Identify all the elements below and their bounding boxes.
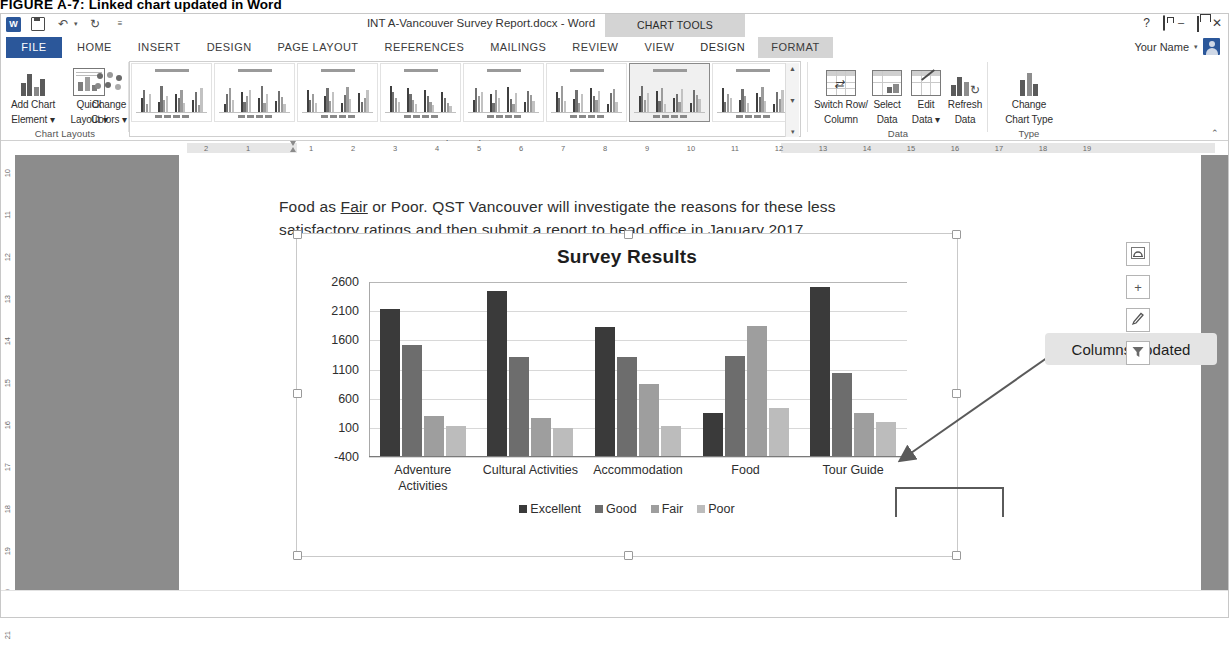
select-data-button[interactable]: Select Data (867, 62, 907, 125)
tab-format-chart[interactable]: FORMAT (758, 37, 832, 58)
selection-handle-tc[interactable] (624, 230, 633, 239)
tab-home[interactable]: HOME (64, 37, 125, 58)
bar[interactable] (639, 384, 659, 456)
tab-insert[interactable]: INSERT (125, 37, 194, 58)
horizontal-ruler[interactable]: 2112345678910111213141516171819 (1, 141, 1228, 156)
bar[interactable] (769, 408, 789, 456)
paragraph-top-underlined-word: Fair (341, 198, 368, 215)
chart-x-axis-labels[interactable]: AdventureActivitiesCultural ActivitiesAc… (369, 462, 907, 494)
bar[interactable] (617, 357, 637, 456)
undo-icon[interactable]: ↶ (55, 16, 71, 32)
gallery-scroll-down-icon[interactable]: ▼ (789, 95, 796, 106)
chart-style-thumbnail[interactable] (463, 63, 544, 122)
tab-page-layout[interactable]: PAGE LAYOUT (265, 37, 372, 58)
tab-design-chart[interactable]: DESIGN (687, 37, 758, 58)
word-application-window: FIGURE A-7: Linked chart updated in Word… (0, 0, 1229, 645)
bar[interactable] (661, 426, 681, 456)
customize-qat-icon[interactable]: ≡ (112, 16, 128, 32)
avatar[interactable] (1203, 38, 1220, 55)
restore-button[interactable] (1197, 15, 1199, 30)
bar[interactable] (380, 309, 400, 456)
tab-mailings[interactable]: MAILINGS (477, 37, 559, 58)
bar[interactable] (747, 326, 767, 456)
layout-options-button[interactable] (1126, 242, 1150, 266)
chart-plot-area[interactable] (369, 282, 907, 457)
bar[interactable] (595, 327, 615, 457)
chart-y-axis-labels[interactable]: 2600210016001100600100-400 (297, 282, 365, 458)
vertical-ruler[interactable]: 101112131415161718192021 (1, 155, 16, 591)
bar-group[interactable] (369, 282, 477, 456)
chart-style-thumbnail[interactable] (629, 63, 710, 122)
chart-style-thumbnail[interactable] (214, 63, 295, 122)
minimize-button[interactable]: – (1178, 17, 1184, 28)
chart-filters-button[interactable] (1126, 341, 1150, 365)
selection-handle-ml[interactable] (293, 389, 302, 398)
bar[interactable] (509, 357, 529, 456)
account-dropdown-icon[interactable]: ▾ (1194, 43, 1198, 51)
selection-handle-bc[interactable] (624, 551, 633, 560)
indent-marker[interactable] (290, 141, 297, 153)
bar[interactable] (725, 356, 745, 456)
bar-group[interactable] (692, 282, 800, 456)
vertical-ruler-tick-label: 15 (3, 379, 12, 387)
selection-handle-br[interactable] (952, 551, 961, 560)
bar[interactable] (703, 413, 723, 456)
document-canvas: Food as Fair or Poor. QST Vancouver will… (15, 155, 1228, 591)
chart-tools-label: CHART TOOLS (637, 19, 713, 31)
chart-style-thumbnail[interactable] (131, 63, 212, 122)
chart-style-thumbnail[interactable] (546, 63, 627, 122)
bar[interactable] (446, 426, 466, 456)
bar[interactable] (810, 287, 830, 456)
tab-file[interactable]: FILE (6, 37, 62, 58)
bar[interactable] (553, 428, 573, 456)
legend-item[interactable]: Poor (697, 502, 734, 516)
bar[interactable] (531, 418, 551, 457)
bar[interactable] (402, 345, 422, 456)
chart-style-thumbnail[interactable] (380, 63, 461, 122)
bar-group[interactable] (477, 282, 585, 456)
undo-dropdown-icon[interactable]: ▾ (74, 20, 78, 28)
chart-object[interactable]: Survey Results 2600210016001100600100-40… (296, 233, 958, 557)
bar[interactable] (424, 416, 444, 456)
selection-handle-bl[interactable] (293, 551, 302, 560)
chart-elements-button[interactable]: + (1126, 275, 1150, 299)
refresh-data-button[interactable]: ↻ Refresh Data (944, 62, 986, 125)
chart-style-thumbnail[interactable] (712, 63, 793, 122)
legend-item[interactable]: Excellent (519, 502, 581, 516)
gallery-scrollbar[interactable]: ▲ ▼ ▾ (785, 63, 799, 137)
switch-row-column-button[interactable]: ⇄ Switch Row/ Column (811, 62, 871, 125)
tab-view[interactable]: VIEW (631, 37, 687, 58)
chart-title[interactable]: Survey Results (297, 246, 957, 268)
chart-legend[interactable]: ExcellentGoodFairPoor (297, 502, 957, 516)
add-chart-element-button[interactable]: Add Chart Element ▾ (3, 62, 63, 125)
chart-style-thumbnail[interactable] (297, 63, 378, 122)
close-button[interactable]: ✕ (1212, 17, 1222, 29)
tab-design[interactable]: DESIGN (194, 37, 265, 58)
gallery-more-icon[interactable]: ▾ (791, 126, 795, 137)
save-icon[interactable] (30, 16, 46, 32)
chart-bar-groups (369, 282, 907, 456)
thumbnail-axis (136, 112, 207, 113)
bar-group[interactable] (584, 282, 692, 456)
help-button[interactable]: ? (1143, 17, 1150, 29)
chart-styles-button[interactable] (1126, 308, 1150, 332)
change-chart-type-button[interactable]: Change Chart Type (997, 62, 1061, 125)
tab-review[interactable]: REVIEW (559, 37, 631, 58)
gallery-scroll-up-icon[interactable]: ▲ (789, 63, 796, 74)
legend-item[interactable]: Good (595, 502, 637, 516)
selection-handle-tr[interactable] (952, 230, 961, 239)
chart-styles-gallery[interactable]: ▲ ▼ ▾ (129, 61, 801, 137)
tab-references[interactable]: REFERENCES (371, 37, 477, 58)
redo-icon[interactable]: ↻ (87, 16, 103, 32)
edit-data-label-2: Data ▾ (906, 114, 946, 126)
legend-item[interactable]: Fair (651, 502, 684, 516)
collapse-ribbon-icon[interactable]: ⌃ (1211, 128, 1219, 138)
edit-data-button[interactable]: Edit Data ▾ (906, 62, 946, 125)
bar[interactable] (832, 373, 852, 456)
ruler-tick-label: 1 (246, 144, 250, 153)
document-page[interactable]: Food as Fair or Poor. QST Vancouver will… (179, 155, 1201, 591)
selection-handle-tl[interactable] (293, 230, 302, 239)
thumbnail-bars (552, 80, 621, 112)
bar[interactable] (487, 291, 507, 456)
ribbon-display-options-button[interactable] (1163, 17, 1165, 29)
